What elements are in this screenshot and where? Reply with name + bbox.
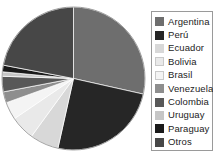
pie-chart-figure: ArgentinaPerúEcuadorBoliviaBrasilVenezue… (0, 0, 213, 160)
legend-item-label: Otros (168, 137, 192, 147)
legend-item-label: Uruguay (168, 110, 205, 120)
legend-item[interactable]: Ecuador (155, 42, 212, 55)
legend-swatch-icon (155, 31, 164, 40)
chart-legend: ArgentinaPerúEcuadorBoliviaBrasilVenezue… (151, 11, 213, 151)
legend-item-label: Brasil (168, 70, 192, 80)
legend-item[interactable]: Uruguay (155, 109, 212, 122)
legend-swatch-icon (155, 17, 164, 26)
legend-item-label: Bolivia (168, 57, 197, 67)
legend-item-label: Ecuador (168, 43, 204, 53)
legend-swatch-icon (155, 98, 164, 107)
pie-slice-group (2, 7, 145, 150)
legend-item[interactable]: Bolivia (155, 55, 212, 68)
pie-svg (0, 0, 148, 160)
legend-swatch-icon (155, 44, 164, 53)
legend-item[interactable]: Brasil (155, 69, 212, 82)
legend-item-label: Venezuela (168, 84, 213, 94)
legend-swatch-icon (155, 57, 164, 66)
legend-swatch-icon (155, 138, 164, 147)
legend-item[interactable]: Colombia (155, 95, 212, 108)
legend-item-list: ArgentinaPerúEcuadorBoliviaBrasilVenezue… (155, 15, 212, 149)
legend-item[interactable]: Paraguay (155, 122, 212, 135)
legend-swatch-icon (155, 84, 164, 93)
legend-swatch-icon (155, 124, 164, 133)
legend-item-label: Perú (168, 30, 188, 40)
legend-item[interactable]: Venezuela (155, 82, 212, 95)
legend-item[interactable]: Otros (155, 136, 212, 149)
legend-item-label: Argentina (168, 17, 210, 27)
legend-item[interactable]: Perú (155, 28, 212, 41)
legend-swatch-icon (155, 71, 164, 80)
pie-plot-area (0, 0, 148, 160)
legend-swatch-icon (155, 111, 164, 120)
legend-item[interactable]: Argentina (155, 15, 212, 28)
legend-item-label: Paraguay (168, 124, 209, 134)
legend-item-label: Colombia (168, 97, 209, 107)
